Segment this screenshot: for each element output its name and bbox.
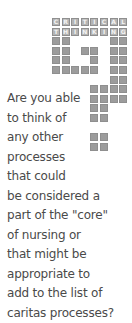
letter-tile: I [71,18,79,26]
letter-tile: T [52,28,60,36]
letter-tile: R [62,18,70,26]
letter-tile: L [119,18,127,26]
letter-tile: A [110,18,118,26]
tile [119,95,127,103]
letter-tile: C [52,18,60,26]
letter-tile: N [81,28,89,36]
tile [90,47,98,55]
question-line: Are you able [7,89,114,109]
question-line: caritas processes? [7,304,114,323]
tile [52,66,60,74]
letter-tile: K [90,28,98,36]
tile [110,66,118,74]
tile [90,66,98,74]
tile [81,47,89,55]
tile [62,66,70,74]
question-line: that could [7,167,114,187]
tile [119,47,127,55]
tile [90,56,98,64]
letter-tile: T [81,18,89,26]
tile [110,47,118,55]
letter-tile: N [110,28,118,36]
question-line: any other [7,128,114,148]
question-line: that might be [7,245,114,265]
tile [119,56,127,64]
question-line: appropriate to [7,265,114,285]
question-line: of nursing or [7,226,114,246]
tile [119,85,127,93]
letter-tile: G [119,28,127,36]
question-line: part of the "core" [7,206,114,226]
tile [62,47,70,55]
letter-tile: I [71,28,79,36]
letter-tile: I [100,28,108,36]
tile [71,66,79,74]
tile [119,37,127,45]
question-line: processes [7,148,114,168]
tile [52,56,60,64]
letter-tile: H [62,28,70,36]
letter-tile: C [100,18,108,26]
tile [110,37,118,45]
tile [52,47,60,55]
question-line: be considered a [7,187,114,207]
tile [62,37,70,45]
critical-thinking-question: Are you able to think of any other proce… [7,89,114,323]
tile [52,37,60,45]
tile [62,56,70,64]
tile [119,66,127,74]
question-line: to think of [7,109,114,129]
tile [81,66,89,74]
tile [110,56,118,64]
tile [110,76,118,84]
question-line: add to the list of [7,284,114,304]
tile [119,76,127,84]
letter-tile: I [90,18,98,26]
